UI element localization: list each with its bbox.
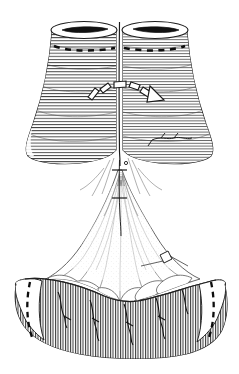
anatomical-line-drawing bbox=[0, 0, 239, 374]
illustration-canvas bbox=[0, 0, 239, 374]
arrow-dash-3 bbox=[114, 81, 126, 88]
